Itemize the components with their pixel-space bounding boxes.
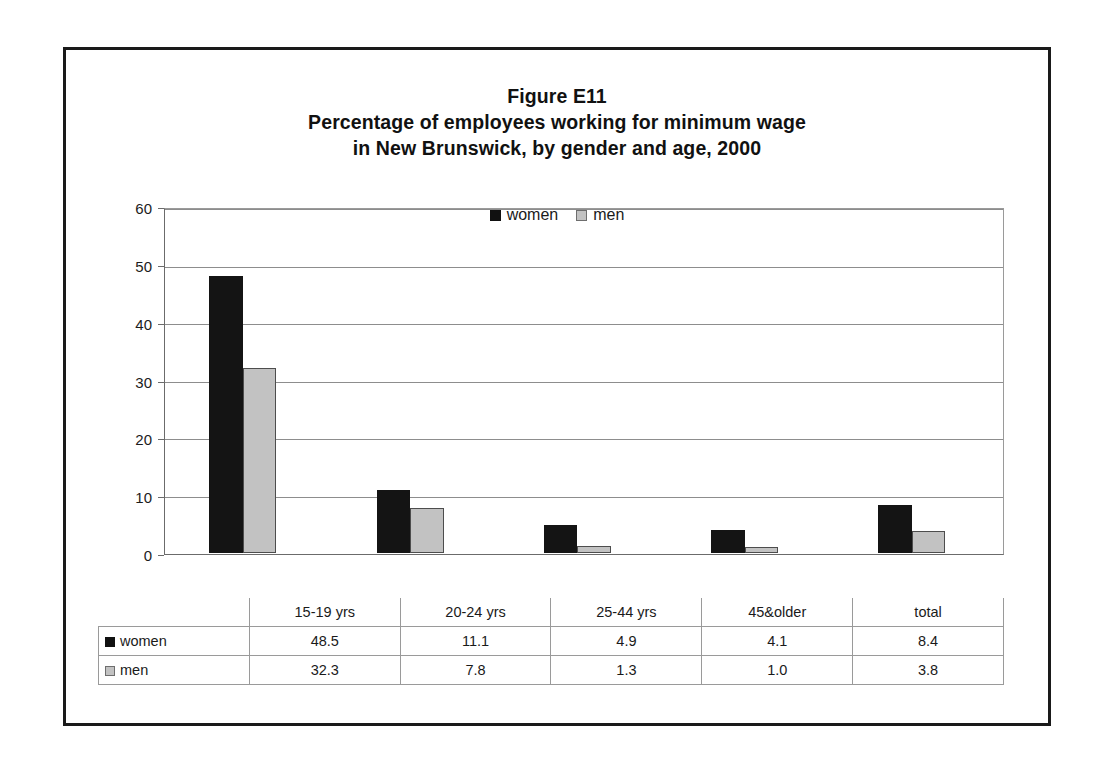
- bar-group-15-19-yrs: [166, 210, 333, 553]
- bar-men-25-44-yrs: [577, 546, 610, 553]
- bars-layer: [166, 210, 1002, 553]
- table-swatch-icon-women: [105, 637, 115, 647]
- cell-men-20-24: 7.8: [400, 656, 551, 685]
- cell-men-total: 3.8: [853, 656, 1004, 685]
- bar-group-25-44-yrs: [500, 210, 667, 553]
- table-rowhead-men: men: [99, 656, 250, 685]
- bar-women-20-24-yrs: [377, 490, 410, 553]
- cell-men-15-19: 32.3: [249, 656, 400, 685]
- bar-women-25-44-yrs: [544, 525, 577, 553]
- cell-women-15-19: 48.5: [249, 627, 400, 656]
- y-tick-mark-10: [158, 497, 164, 498]
- bar-men-15-19-yrs: [243, 368, 276, 553]
- y-tick-label-0: 0: [144, 547, 152, 564]
- bar-men-45-older: [745, 547, 778, 553]
- table-header-20-24: 20-24 yrs: [400, 598, 551, 627]
- figure-title: Figure E11 Percentage of employees worki…: [66, 83, 1048, 161]
- title-line-region-year: in New Brunswick, by gender and age, 200…: [66, 135, 1048, 161]
- cell-men-25-44: 1.3: [551, 656, 702, 685]
- bar-women-45-older: [711, 530, 744, 553]
- bar-women-15-19-yrs: [209, 276, 242, 553]
- table-rowlabel-women: women: [120, 633, 167, 649]
- plot-area: [164, 208, 1004, 555]
- y-tick-mark-20: [158, 439, 164, 440]
- title-line-description: Percentage of employees working for mini…: [66, 109, 1048, 135]
- bar-group-total: [835, 210, 1002, 553]
- y-tick-mark-60: [158, 208, 164, 209]
- title-line-figure-number: Figure E11: [66, 83, 1048, 109]
- y-tick-mark-50: [158, 266, 164, 267]
- y-tick-label-10: 10: [135, 489, 152, 506]
- cell-men-45-older: 1.0: [702, 656, 853, 685]
- y-tick-mark-40: [158, 324, 164, 325]
- figure-frame: Figure E11 Percentage of employees worki…: [63, 47, 1051, 726]
- y-tick-label-30: 30: [135, 373, 152, 390]
- table-header-45-older: 45&older: [702, 598, 853, 627]
- y-tick-mark-0: [158, 555, 164, 556]
- table-row-men: men 32.3 7.8 1.3 1.0 3.8: [99, 656, 1004, 685]
- y-tick-label-60: 60: [135, 200, 152, 217]
- y-tick-label-50: 50: [135, 257, 152, 274]
- bar-men-20-24-yrs: [410, 508, 443, 553]
- y-tick-label-40: 40: [135, 315, 152, 332]
- table-corner-cell: [99, 598, 250, 627]
- cell-women-25-44: 4.9: [551, 627, 702, 656]
- bar-group-45-older: [668, 210, 835, 553]
- table-rowhead-women: women: [99, 627, 250, 656]
- cell-women-20-24: 11.1: [400, 627, 551, 656]
- table-swatch-icon-men: [105, 666, 115, 676]
- table-header-25-44: 25-44 yrs: [551, 598, 702, 627]
- table-header-row: 15-19 yrs 20-24 yrs 25-44 yrs 45&older t…: [99, 598, 1004, 627]
- y-tick-mark-30: [158, 382, 164, 383]
- table-header-total: total: [853, 598, 1004, 627]
- bar-men-total: [912, 531, 945, 553]
- bar-women-total: [878, 505, 911, 553]
- table-row-women: women 48.5 11.1 4.9 4.1 8.4: [99, 627, 1004, 656]
- y-tick-label-20: 20: [135, 431, 152, 448]
- plot-area-wrapper: 0102030405060: [164, 208, 1004, 555]
- cell-women-45-older: 4.1: [702, 627, 853, 656]
- cell-women-total: 8.4: [853, 627, 1004, 656]
- bar-group-20-24-yrs: [333, 210, 500, 553]
- table-header-15-19: 15-19 yrs: [249, 598, 400, 627]
- data-table: 15-19 yrs 20-24 yrs 25-44 yrs 45&older t…: [98, 598, 1004, 685]
- table-rowlabel-men: men: [120, 662, 148, 678]
